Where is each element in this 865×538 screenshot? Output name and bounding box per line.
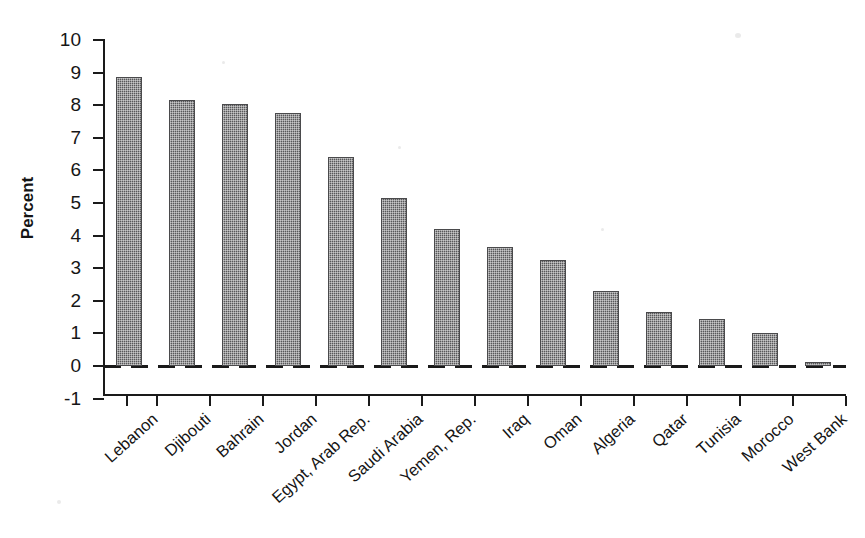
bar-oman — [540, 260, 566, 366]
page-speckle — [601, 228, 604, 231]
bar-morocco — [752, 333, 778, 366]
page-speckle — [57, 500, 61, 504]
bar-qatar — [646, 312, 672, 366]
bar-west-bank — [805, 362, 831, 366]
page-speckle — [398, 146, 401, 149]
bar-djibouti — [169, 100, 195, 366]
bar-iraq — [487, 247, 513, 366]
bar-saudi-arabia — [381, 198, 407, 366]
bar-yemen-rep — [434, 229, 460, 366]
page-speckle — [735, 33, 741, 38]
bar-lebanon — [116, 77, 142, 366]
bar-jordan — [275, 113, 301, 366]
bar-egypt-arab-rep — [328, 157, 354, 366]
bar-chart: Percent 109876543210-1 LebanonDjiboutiBa… — [0, 0, 865, 538]
bar-bahrain — [222, 104, 248, 366]
page-speckle — [222, 61, 225, 64]
bar-algeria — [593, 291, 619, 366]
bar-tunisia — [699, 319, 725, 366]
